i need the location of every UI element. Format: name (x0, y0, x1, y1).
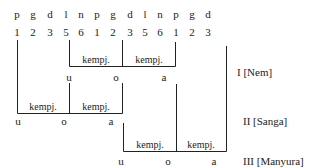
number: 6 (78, 27, 84, 38)
vowel: o (113, 72, 119, 83)
pitch: d (47, 9, 53, 20)
kempyang-label: kempj. (135, 55, 163, 65)
pitch: l (143, 9, 146, 20)
vowel: u (118, 156, 124, 167)
kempyang-label: kempj. (82, 55, 110, 65)
number: 3 (47, 27, 53, 38)
number: 3 (127, 27, 133, 38)
pitch: p (94, 9, 100, 20)
register-label: III [Manyura] (243, 156, 304, 167)
number: 1 (94, 27, 100, 38)
pitch: g (189, 9, 195, 20)
register-label: I [Nem] (237, 67, 272, 78)
number: 2 (189, 27, 195, 38)
pitch: g (110, 9, 116, 20)
number: 5 (142, 27, 148, 38)
vowel: a (109, 116, 114, 127)
vowel: o (61, 116, 67, 127)
kempyang-label: kempj. (136, 140, 164, 150)
number: 1 (173, 27, 179, 38)
vowel: u (66, 72, 72, 83)
pitch: n (78, 9, 84, 20)
kempyang-label: kempj. (187, 140, 215, 150)
pitch: g (30, 9, 36, 20)
pitch: p (14, 9, 20, 20)
pitch: d (205, 9, 211, 20)
register-label: II [Sanga] (243, 116, 287, 127)
number: 2 (30, 27, 36, 38)
vowel: a (162, 72, 167, 83)
kempyang-label: kempj. (82, 102, 110, 112)
kempyang-label: kempj. (29, 102, 57, 112)
vowel: o (165, 156, 171, 167)
vowel: a (212, 156, 217, 167)
pitch: n (157, 9, 163, 20)
number: 3 (205, 27, 211, 38)
pitch: l (64, 9, 67, 20)
number: 1 (14, 27, 20, 38)
number: 5 (63, 27, 69, 38)
number: 6 (157, 27, 163, 38)
pitch: p (173, 9, 179, 20)
number: 2 (110, 27, 116, 38)
pitch: d (127, 9, 133, 20)
vowel: u (15, 116, 21, 127)
